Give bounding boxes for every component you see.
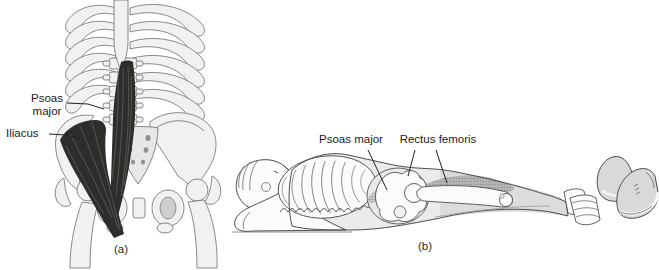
caption-panel-b: (b)	[409, 240, 441, 252]
socks	[564, 189, 600, 225]
shoes	[597, 157, 658, 219]
label-psoas-major-a: Psoas major	[24, 92, 70, 118]
label-rectus-femoris: Rectus femoris	[399, 133, 477, 146]
psoas-major-muscle	[110, 61, 135, 217]
anatomy-figure: Psoas major Iliacus (a) Psoas major Rect…	[0, 0, 659, 270]
label-psoas-major-b: Psoas major	[318, 133, 384, 146]
caption-panel-a: (a)	[105, 243, 137, 255]
label-iliacus: Iliacus	[6, 127, 48, 140]
femurs	[55, 176, 221, 268]
